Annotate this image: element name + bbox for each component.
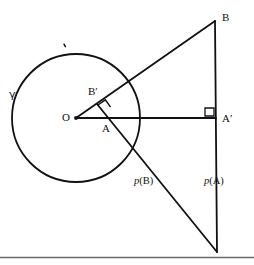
label-circle-gamma: γ [9, 89, 16, 100]
label-polar-of-a: p(A) [204, 176, 224, 187]
label-point-a: A [102, 123, 110, 134]
figure-canvas [0, 0, 254, 265]
label-polar-of-a-arg: (A) [209, 175, 224, 186]
point-dot-o [74, 116, 78, 120]
circle-top-tick-icon [64, 44, 65, 46]
geometry-figure: γ O B A′ B′ A p(B) p(A) [0, 0, 254, 265]
label-point-b-prime: B′ [88, 86, 98, 97]
right-angle-mark-at-a-prime [205, 108, 214, 116]
label-point-a-prime: A′ [222, 113, 232, 124]
label-point-o: O [62, 112, 70, 123]
label-polar-of-b: p(B) [134, 176, 153, 187]
label-polar-of-b-arg: (B) [139, 175, 153, 186]
label-point-b: B [222, 12, 229, 23]
segment-polar-of-b [97, 104, 217, 252]
segment-polar-of-a [215, 21, 217, 252]
